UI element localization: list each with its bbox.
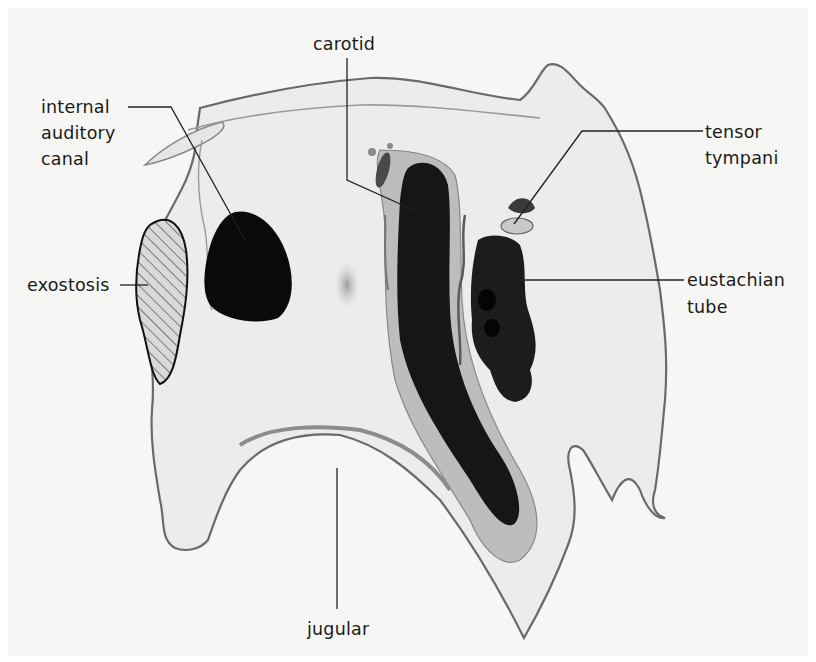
eustachian-cell-1 bbox=[478, 289, 496, 311]
diagram-page: carotid internal auditory canal tensor t… bbox=[0, 0, 816, 662]
label-tensor-tympani-line1: tensor bbox=[705, 121, 762, 143]
cochlear-blotch bbox=[334, 261, 360, 309]
eustachian-cell-2 bbox=[484, 319, 500, 337]
label-exostosis: exostosis bbox=[27, 274, 110, 296]
label-internal-auditory-canal-line3: canal bbox=[41, 148, 89, 170]
label-eustachian-tube-line2: tube bbox=[687, 296, 728, 318]
label-internal-auditory-canal-line2: auditory bbox=[41, 122, 116, 144]
label-internal-auditory-canal-line1: internal bbox=[41, 96, 110, 118]
label-jugular: jugular bbox=[307, 618, 369, 640]
ossicle-canal-2 bbox=[368, 148, 376, 156]
label-eustachian-tube-line1: eustachian bbox=[687, 269, 785, 291]
label-carotid: carotid bbox=[313, 33, 375, 55]
ossicle-canal-3 bbox=[387, 143, 393, 149]
temporal-bone-cross-section bbox=[0, 0, 816, 662]
label-tensor-tympani-line2: tympani bbox=[705, 147, 778, 169]
